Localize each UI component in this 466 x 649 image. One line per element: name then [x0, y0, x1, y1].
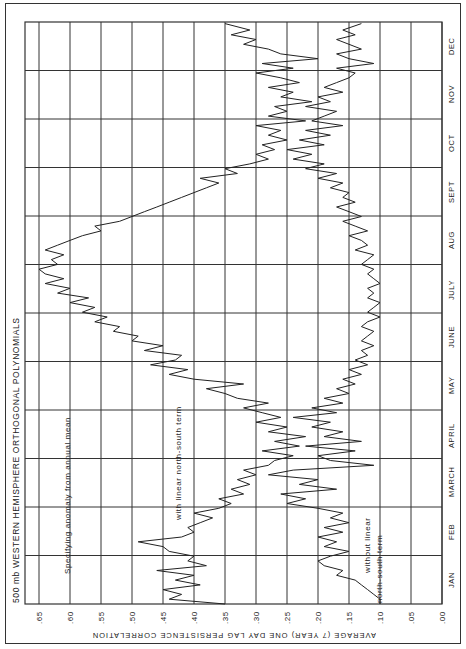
- month-label: DEC: [447, 37, 456, 55]
- value-tick-label: .55: [97, 611, 106, 624]
- value-tick-label: .50: [128, 611, 137, 624]
- month-label: SEPT: [447, 181, 456, 203]
- value-tick-label: .35: [221, 611, 230, 624]
- month-label: AUG: [447, 231, 456, 249]
- value-tick-label: .60: [66, 611, 75, 624]
- chart-title: 500 mb WESTERN HEMISPHERE ORTHOGONAL POL…: [11, 317, 21, 603]
- chart-subtitle: Specifying anomaly from annual mean: [63, 417, 72, 574]
- month-label: OCT: [447, 134, 456, 152]
- month-label: MAY: [447, 377, 456, 395]
- value-tick-label: .15: [345, 611, 354, 624]
- value-tick-label: .25: [283, 611, 292, 624]
- value-tick-label: .20: [314, 611, 323, 624]
- value-tick-label: .65: [35, 611, 44, 624]
- month-label: FEB: [447, 523, 456, 539]
- value-tick-label: .30: [252, 611, 261, 624]
- annotation-without-term-1: without linear: [363, 517, 372, 573]
- annotation-with-term: with linear north-south term: [174, 406, 183, 520]
- value-tick-label: .45: [159, 611, 168, 624]
- month-label: APRIL: [447, 424, 456, 449]
- axis-label: AVERAGE (7 YEAR) ONE DAY LAG PERSISTENCE…: [92, 631, 376, 640]
- month-label: JAN: [447, 572, 456, 588]
- month-label: JUNE: [447, 326, 456, 348]
- value-tick-label: .00: [438, 611, 447, 624]
- value-tick-label: .40: [190, 611, 199, 624]
- month-label: JULY: [447, 280, 456, 300]
- value-tick-label: .10: [376, 611, 385, 624]
- month-label: NOV: [447, 85, 456, 103]
- annotation-without-term-2: north-south term: [375, 535, 384, 603]
- value-tick-label: .05: [407, 611, 416, 624]
- month-label: MARCH: [447, 466, 456, 497]
- series-lines: [39, 24, 380, 604]
